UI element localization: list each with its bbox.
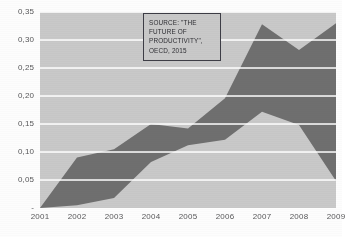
x-tick-label: 2002 — [57, 212, 97, 221]
x-tick-label: 2005 — [168, 212, 208, 221]
source-line-2: FUTURE OF — [149, 27, 216, 36]
x-tick-label: 2009 — [316, 212, 349, 221]
y-tick-label: 0,35 — [0, 8, 34, 16]
x-tick-label: 2004 — [131, 212, 171, 221]
source-line-4: OECD, 2015 — [149, 46, 216, 55]
y-tick-label: 0,15 — [0, 120, 34, 128]
x-tick-label: 2001 — [20, 212, 60, 221]
y-tick-label: 0,05 — [0, 176, 34, 184]
y-tick-label: - — [0, 204, 34, 212]
x-tick-label: 2008 — [279, 212, 319, 221]
x-tick-label: 2003 — [94, 212, 134, 221]
y-tick-label: 0,25 — [0, 64, 34, 72]
source-line-3: PRODUCTIVITY", — [149, 36, 216, 45]
y-axis: 0,350,300,250,200,150,100,05- — [0, 0, 38, 216]
y-tick-label: 0,20 — [0, 92, 34, 100]
y-tick-label: 0,30 — [0, 36, 34, 44]
x-axis: 200120022003200420052006200720082009 — [40, 210, 336, 230]
source-line-1: SOURCE: "THE — [149, 18, 216, 27]
x-tick-label: 2006 — [205, 212, 245, 221]
y-tick-label: 0,10 — [0, 148, 34, 156]
x-tick-label: 2007 — [242, 212, 282, 221]
source-annotation: SOURCE: "THE FUTURE OF PRODUCTIVITY", OE… — [143, 13, 221, 61]
